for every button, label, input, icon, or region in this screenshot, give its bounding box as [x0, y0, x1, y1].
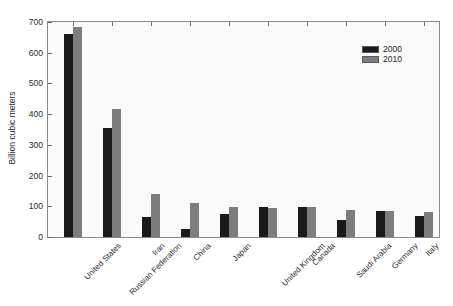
- x-axis-tick-mark: [190, 22, 191, 26]
- bar-italy-2000: [415, 216, 424, 237]
- x-axis-tick-mark: [424, 22, 425, 26]
- y-axis-tick-label: 100: [29, 202, 43, 211]
- bar-canada-2000: [298, 207, 307, 237]
- bar-italy-2010: [424, 212, 433, 237]
- x-axis-tick-mark: [268, 22, 269, 26]
- y-axis-tick-mark: [48, 237, 52, 238]
- bar-japan-2010: [229, 207, 238, 237]
- x-axis-tick-mark: [346, 22, 347, 26]
- bar-japan-2000: [220, 214, 229, 237]
- legend-item-2000: 2000: [362, 44, 402, 54]
- bar-united-kingdom-2010: [268, 208, 277, 237]
- bar-china-2010: [190, 203, 199, 237]
- chart-legend: 20002010: [362, 44, 402, 64]
- x-axis-tick-mark: [73, 22, 74, 26]
- bar-saudi-arabia-2010: [346, 210, 355, 237]
- y-axis-tick-mark: [48, 206, 52, 207]
- y-axis-title: Billion cubic meters: [8, 91, 17, 164]
- y-axis-tick-label: 500: [29, 79, 43, 88]
- x-axis-tick-mark: [229, 22, 230, 26]
- y-axis-tick-label: 700: [29, 18, 43, 27]
- bar-united-kingdom-2000: [259, 207, 268, 237]
- bar-germany-2000: [376, 211, 385, 237]
- x-axis-tick-label: Saudi Arabia: [359, 242, 397, 280]
- y-axis-tick-label: 200: [29, 171, 43, 180]
- y-axis-tick-label: 0: [38, 233, 43, 242]
- bar-canada-2010: [307, 207, 316, 237]
- bar-china-2000: [181, 229, 190, 237]
- y-axis-tick-label: 600: [29, 48, 43, 57]
- y-axis-tick-mark: [48, 53, 52, 54]
- y-axis-tick-mark: [48, 22, 52, 23]
- y-axis-tick-mark: [48, 176, 52, 177]
- bar-saudi-arabia-2000: [337, 220, 346, 237]
- y-axis-tick-mark: [48, 83, 52, 84]
- bar-russian-federation-2010: [112, 109, 121, 237]
- legend-swatch-2000: [362, 46, 379, 53]
- bar-iran-2010: [151, 194, 160, 237]
- x-axis-tick-mark: [385, 22, 386, 26]
- bar-united-states-2010: [73, 27, 82, 237]
- x-axis-tick-mark: [151, 22, 152, 26]
- bar-chart-figure: Billion cubic meters 0100200300400500600…: [0, 0, 453, 306]
- x-axis-tick-label: Germany: [394, 242, 423, 271]
- x-axis-tick-label: Japan: [234, 242, 255, 263]
- x-axis-tick-label: China: [195, 242, 215, 262]
- y-axis-tick-label: 300: [29, 141, 43, 150]
- y-axis-tick-label: 400: [29, 110, 43, 119]
- y-axis-tick-mark: [48, 145, 52, 146]
- bar-germany-2010: [385, 211, 394, 237]
- bar-iran-2000: [142, 217, 151, 237]
- x-axis-tick-label: United States: [86, 242, 126, 282]
- x-axis-tick-label: Italy: [428, 242, 444, 258]
- bar-united-states-2000: [64, 34, 73, 237]
- y-axis-tick-mark: [48, 114, 52, 115]
- legend-swatch-2010: [362, 56, 379, 63]
- legend-label-2010: 2010: [383, 55, 402, 64]
- bar-russian-federation-2000: [103, 128, 112, 237]
- legend-item-2010: 2010: [362, 54, 402, 64]
- legend-label-2000: 2000: [383, 45, 402, 54]
- x-axis-tick-mark: [307, 22, 308, 26]
- x-axis-tick-mark: [112, 22, 113, 26]
